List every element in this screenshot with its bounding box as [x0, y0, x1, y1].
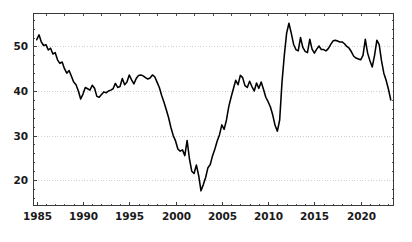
- x-tick-label-1995: 1995: [115, 210, 144, 222]
- chart-container: 19851990199520002005201020152020 2030405…: [0, 0, 412, 242]
- x-tick-label-2015: 2015: [300, 210, 329, 222]
- line-chart: 19851990199520002005201020152020 2030405…: [0, 0, 412, 242]
- y-tick-label-40: 40: [13, 85, 28, 97]
- y-tick-label-50: 50: [13, 40, 28, 52]
- x-tick-label-2005: 2005: [208, 210, 237, 222]
- x-tick-label-2000: 2000: [162, 210, 191, 222]
- y-tick-label-20: 20: [13, 174, 28, 186]
- x-tick-label-2010: 2010: [254, 210, 283, 222]
- x-tick-label-1985: 1985: [23, 210, 52, 222]
- y-tick-label-30: 30: [13, 130, 28, 142]
- x-tick-label-1990: 1990: [69, 210, 98, 222]
- x-tick-label-2020: 2020: [347, 210, 376, 222]
